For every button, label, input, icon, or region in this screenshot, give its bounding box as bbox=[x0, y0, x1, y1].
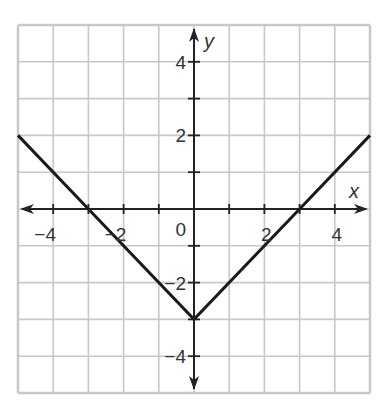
y-axis-label: y bbox=[202, 30, 215, 52]
coordinate-plane: −4−22442−2−40 x y bbox=[0, 0, 387, 415]
x-tick-label: 4 bbox=[332, 224, 343, 245]
x-tick-label: −2 bbox=[105, 224, 127, 245]
axes bbox=[20, 28, 368, 390]
y-tick-label: 2 bbox=[175, 125, 186, 146]
y-tick-label: −2 bbox=[164, 273, 186, 294]
x-axis-label: x bbox=[348, 180, 360, 202]
y-tick-label: 4 bbox=[175, 52, 186, 73]
origin-label: 0 bbox=[175, 219, 186, 240]
x-tick-label: 2 bbox=[261, 224, 272, 245]
y-tick-label: −4 bbox=[164, 346, 186, 367]
x-tick-label: −4 bbox=[34, 224, 56, 245]
